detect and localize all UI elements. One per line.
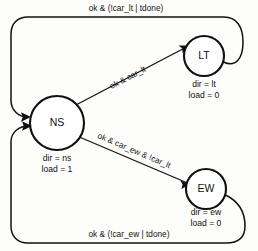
transition-label-ns-to-lt: ok & car_lt xyxy=(108,64,148,91)
transition-label-ew-to-ns: ok & (!car_ew | tdone) xyxy=(88,229,169,239)
state-ns[interactable]: NS dir = ns load = 1 xyxy=(30,96,84,174)
state-ns-label: NS xyxy=(50,116,65,128)
state-ns-output-dir: dir = ns xyxy=(43,153,71,163)
state-ew-output-load: load = 0 xyxy=(191,218,222,228)
state-ew-output-dir: dir = ew xyxy=(191,207,222,217)
state-ew[interactable]: EW dir = ew load = 0 xyxy=(186,169,226,228)
transition-label-lt-to-ns: ok & (!car_lt | tdone) xyxy=(89,3,164,13)
state-lt[interactable]: LT dir = lt load = 0 xyxy=(184,36,224,100)
state-diagram: NS dir = ns load = 1 LT dir = lt load = … xyxy=(0,0,258,251)
state-ew-label: EW xyxy=(198,182,215,194)
transition-label-ns-to-ew: ok & car_ew & !car_lt xyxy=(96,130,173,170)
state-lt-output-load: load = 0 xyxy=(189,90,220,100)
state-lt-output-dir: dir = lt xyxy=(192,79,216,89)
state-lt-label: LT xyxy=(198,49,210,61)
fsm-canvas: NS dir = ns load = 1 LT dir = lt load = … xyxy=(0,0,258,251)
state-ns-output-load: load = 1 xyxy=(42,164,73,174)
